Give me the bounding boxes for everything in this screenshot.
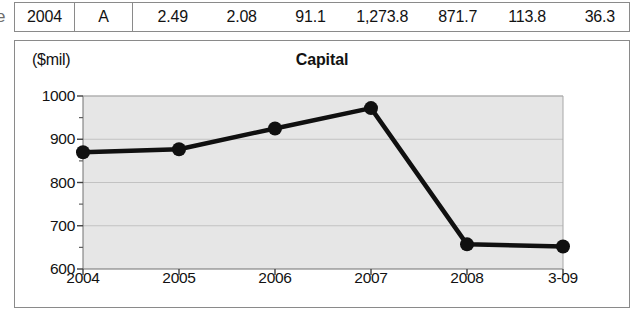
table-cell-year: 2004: [15, 3, 75, 31]
chart-panel: ($mil) Capital 6007008009001000 20042005…: [14, 40, 630, 308]
x-axis-label-2008: 2008: [432, 269, 502, 287]
y-axis-label-900: 900: [23, 130, 75, 148]
page-edge-fragment: e: [0, 4, 8, 30]
table-cell-v7: 36.3: [560, 3, 629, 31]
x-axis-label-2005: 2005: [144, 269, 214, 287]
table-cell-v5: 871.7: [422, 3, 491, 31]
table-row: 2004 A 2.49 2.08 91.1 1,273.8 871.7 113.…: [14, 2, 630, 32]
y-axis-label-700: 700: [23, 217, 75, 235]
x-axis-label-2004: 2004: [48, 269, 118, 287]
x-axis-label-3-09: 3-09: [528, 269, 598, 287]
table-cell-v4: 1,273.8: [340, 3, 423, 31]
y-axis-label-800: 800: [23, 174, 75, 192]
table-cell-grade: A: [75, 3, 133, 31]
plot-area: 6007008009001000 200420052006200720083-0…: [15, 41, 631, 309]
table-cell-v6: 113.8: [491, 3, 560, 31]
table-cell-v1: 2.49: [133, 3, 202, 31]
table-cell-v3: 91.1: [271, 3, 340, 31]
table-cell-v2: 2.08: [202, 3, 271, 31]
y-axis-label-1000: 1000: [23, 87, 75, 105]
x-axis-label-2006: 2006: [240, 269, 310, 287]
x-axis-label-2007: 2007: [336, 269, 406, 287]
